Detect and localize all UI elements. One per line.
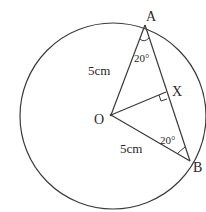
label-angle-a: 20° [134,52,149,64]
label-a: A [146,9,157,24]
perpendicular-ox [111,92,166,115]
right-angle-marker [159,95,167,101]
radius-oa [111,25,145,115]
circle-diagram: A O B X 5cm 5cm 20° 20° [0,0,206,212]
angle-arc-a [140,38,149,41]
angle-arc-b [177,147,185,154]
label-oa-length: 5cm [88,63,110,78]
center-point-o [110,114,113,117]
label-angle-b: 20° [160,134,175,146]
label-x: X [172,84,182,99]
label-b: B [193,160,202,175]
label-o: O [94,112,104,127]
label-ob-length: 5cm [120,141,142,156]
